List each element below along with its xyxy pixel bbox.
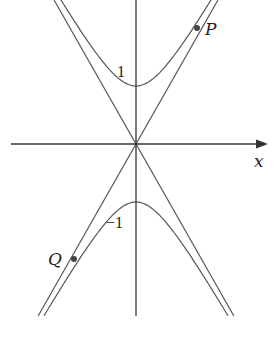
point-q-label: Q [48,249,62,269]
hyperbola-diagram: x 1 −1 P Q [0,0,278,347]
point-p [194,25,200,31]
x-axis-arrow-icon [256,140,268,149]
tick-label-1: 1 [117,63,125,80]
tick-label-minus-1: −1 [106,214,123,231]
x-axis-label: x [254,151,264,171]
asymptote-negative-slope [54,0,234,316]
point-q [71,256,77,262]
asymptote-positive-slope [38,0,218,316]
point-p-label: P [204,19,217,39]
